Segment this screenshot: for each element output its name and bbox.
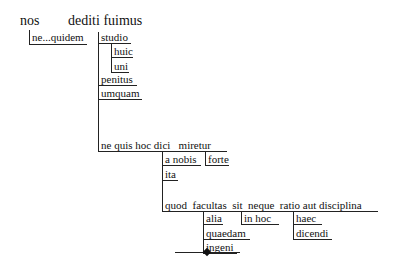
word-huic: huic — [114, 45, 133, 57]
forte-underline — [205, 165, 229, 166]
word-quaedam: quaedam — [206, 227, 246, 239]
word-dicendi: dicendi — [296, 227, 328, 239]
word-umquam: umquam — [101, 87, 140, 99]
word-uni: uni — [114, 60, 128, 72]
penitus-underline — [98, 85, 137, 86]
alia-underline — [203, 224, 223, 225]
verb-word: dediti fuimus — [68, 13, 142, 28]
studio-underline — [98, 43, 131, 44]
modifier-line — [29, 30, 30, 45]
dicendi-underline — [293, 239, 332, 240]
verb-modifier-stem — [98, 32, 99, 152]
quaedam-underline — [203, 239, 250, 240]
word-ita: ita — [165, 168, 176, 180]
subject-word: nos — [20, 13, 39, 28]
word-studio: studio — [101, 31, 128, 43]
word-in-hoc: in hoc — [244, 212, 271, 224]
a-nobis-underline — [162, 165, 201, 166]
word-ne-quidem: ne...quidem — [32, 31, 84, 43]
word-haec: haec — [296, 212, 316, 224]
clause1-modifier-stem — [162, 151, 163, 211]
forte-stem — [205, 151, 206, 166]
word-forte: forte — [208, 153, 229, 165]
modifier-underline — [29, 44, 87, 45]
ratio-modifier-stem — [293, 211, 294, 240]
studio-modifier-stem — [111, 43, 112, 73]
ita-underline — [162, 180, 178, 181]
in-hoc-stem — [241, 211, 242, 225]
huic-underline — [111, 57, 133, 58]
umquam-underline — [98, 99, 142, 100]
word-penitus: penitus — [101, 73, 133, 85]
facultas-modifier-stem — [203, 211, 204, 254]
haec-underline — [293, 224, 322, 225]
clause-quod: quod facultas sit neque ratio aut discip… — [165, 199, 362, 211]
clause-ne-quis: ne quis hoc dici miretur — [101, 139, 211, 151]
word-alia: alia — [206, 212, 222, 224]
in-hoc-underline — [241, 224, 279, 225]
word-a-nobis: a nobis — [165, 153, 196, 165]
